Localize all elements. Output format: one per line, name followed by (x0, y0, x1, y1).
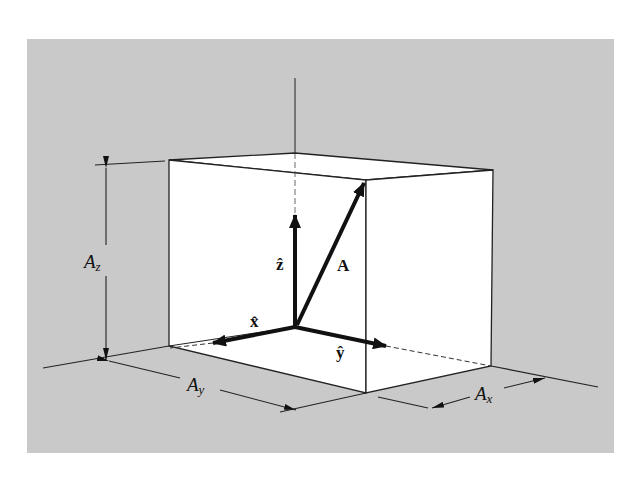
label-y-hat: ŷ (336, 343, 345, 362)
label-Az: Az (82, 251, 101, 274)
label-vector-A: A (337, 256, 350, 275)
label-Ax: Ax (473, 383, 493, 406)
box-right-face (366, 170, 493, 393)
label-Ay: Ay (185, 374, 205, 397)
vector-box-diagram: Az Ay Ax ẑ A x̂ ŷ (0, 0, 634, 480)
dimension-Az: Az (82, 161, 165, 360)
floor-line-right (491, 366, 598, 387)
label-x-hat: x̂ (250, 312, 259, 331)
label-z-hat: ẑ (276, 255, 284, 274)
